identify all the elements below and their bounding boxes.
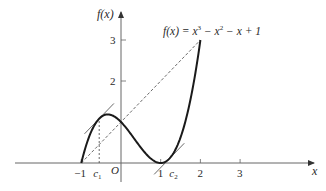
x-axis-label: x (311, 164, 318, 178)
x-tick-label: 1 (158, 167, 164, 179)
origin-label: O (111, 164, 119, 176)
function-label: f(x) = x3 − x2 − x + 1 (163, 24, 261, 38)
x-tick-label: 2 (197, 167, 203, 179)
y-axis-label: f(x) (97, 7, 114, 21)
c2-label: c2 (169, 167, 178, 181)
mean-value-theorem-chart: f(x) x O f(x) = x3 − x2 − x + 1 −112323 … (0, 0, 326, 191)
chart-svg: f(x) x O f(x) = x3 − x2 − x + 1 −112323 … (0, 0, 326, 191)
c1-label: c1 (93, 167, 102, 181)
x-tick-label: −1 (74, 167, 86, 179)
c-point-labels: c1c2 (93, 167, 178, 181)
axis-ticks (81, 40, 240, 163)
y-tick-label: 2 (110, 75, 116, 87)
tick-labels: −112323 (74, 34, 243, 179)
y-tick-label: 3 (110, 34, 116, 46)
x-tick-label: 3 (237, 167, 243, 179)
